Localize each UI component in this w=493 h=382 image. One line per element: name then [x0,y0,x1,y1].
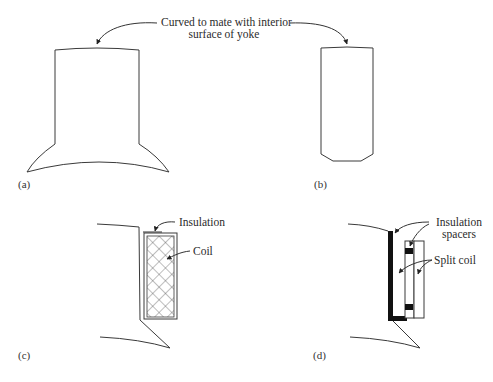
pole-diagram-canvas [0,0,493,382]
top-annotation-line2: surface of yoke [161,28,287,40]
spacer-top [405,248,413,254]
insulation-bar-d [388,231,407,321]
insulation-arrow-c [155,222,175,231]
panel-label-b: (b) [314,178,327,190]
label-insulation-spacers-d: Insulation spacers [429,216,489,240]
label-insulation-line2: spacers [429,228,489,240]
label-insulation-c: Insulation [179,216,225,228]
top-annotation: Curved to mate with interior surface of … [161,16,287,40]
spacer-bottom [405,304,413,310]
pole-a-shape [27,48,169,172]
label-insulation-line1: Insulation [429,216,489,228]
label-split-coil-d: Split coil [434,254,476,266]
annotation-arrow-to-b [290,23,347,44]
panel-label-c: (c) [18,349,30,361]
coil-c [143,232,177,319]
pole-b-shape [321,47,373,161]
top-annotation-line1: Curved to mate with interior [161,16,287,28]
annotation-arrow-to-a [97,23,157,44]
split-coil-d [405,241,424,318]
label-coil-c: Coil [193,245,213,257]
panel-label-d: (d) [313,349,326,361]
panel-label-a: (a) [18,178,30,190]
